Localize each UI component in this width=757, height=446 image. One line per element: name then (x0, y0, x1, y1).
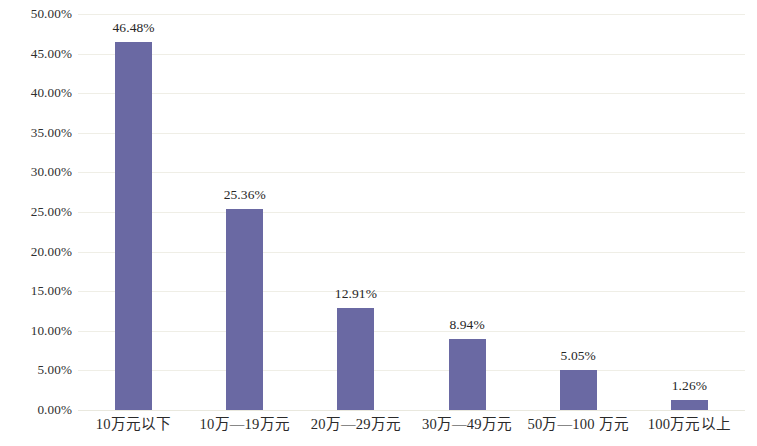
gridline (78, 410, 745, 411)
x-axis-category-label: 30万—49万元 (422, 414, 512, 434)
y-axis-tick-label: 5.00% (0, 364, 72, 377)
bar-value-label: 25.36% (224, 188, 266, 202)
y-axis-tick-label: 35.00% (0, 126, 72, 139)
gridline (78, 252, 745, 253)
gridline (78, 331, 745, 332)
x-axis-category-label: 50万—100 万元 (527, 414, 629, 434)
bar (560, 370, 597, 410)
gridline (78, 133, 745, 134)
gridline (78, 291, 745, 292)
gridline (78, 54, 745, 55)
bar-value-label: 46.48% (112, 21, 154, 35)
bar-value-label: 5.05% (561, 349, 596, 363)
x-axis: 10万元以下10万—19万元20万—29万元30万—49万元50万—100 万元… (0, 414, 757, 446)
y-axis-tick-label: 30.00% (0, 166, 72, 179)
x-axis-category-label: 10万—19万元 (200, 414, 290, 434)
bar-value-label: 1.26% (672, 379, 707, 393)
plot-area (78, 14, 745, 410)
bar (226, 209, 263, 410)
x-axis-category-label: 10万元以下 (96, 414, 172, 434)
y-axis-tick-label: 10.00% (0, 324, 72, 337)
x-axis-category-label: 20万—29万元 (311, 414, 401, 434)
y-axis-tick-label: 50.00% (0, 7, 72, 20)
bar (671, 400, 708, 410)
bar (337, 308, 374, 410)
gridline (78, 93, 745, 94)
x-axis-category-label: 100万元以上 (648, 414, 731, 434)
bar-value-label: 12.91% (335, 287, 377, 301)
bar (449, 339, 486, 410)
bar-value-label: 8.94% (449, 318, 484, 332)
gridline (78, 172, 745, 173)
y-axis: 0.00%5.00%10.00%15.00%20.00%25.00%30.00%… (0, 0, 72, 446)
y-axis-tick-label: 25.00% (0, 205, 72, 218)
y-axis-tick-label: 45.00% (0, 47, 72, 60)
bar-chart: 0.00%5.00%10.00%15.00%20.00%25.00%30.00%… (0, 0, 757, 446)
gridline (78, 370, 745, 371)
bar (115, 42, 152, 410)
y-axis-tick-label: 20.00% (0, 245, 72, 258)
gridline (78, 14, 745, 15)
gridline (78, 212, 745, 213)
y-axis-tick-label: 15.00% (0, 285, 72, 298)
y-axis-tick-label: 40.00% (0, 87, 72, 100)
